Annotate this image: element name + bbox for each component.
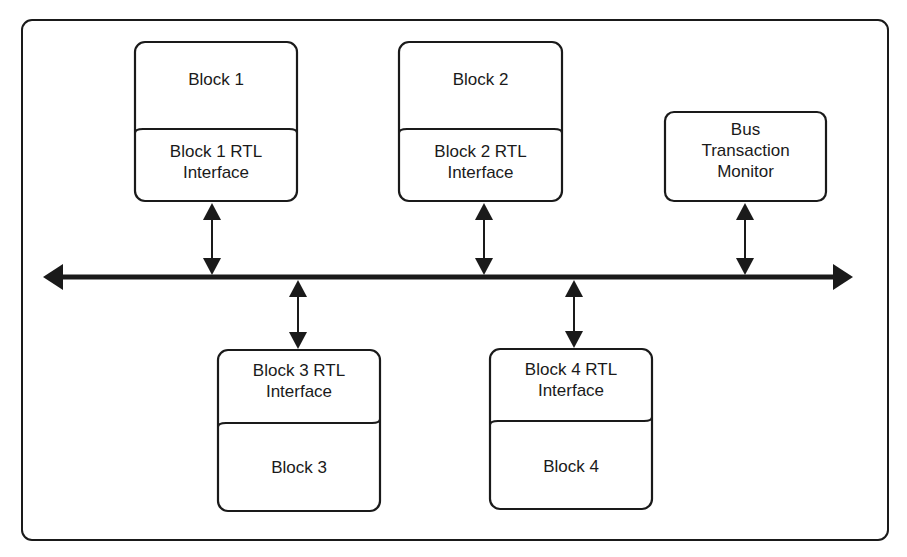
connector-block-3 bbox=[289, 280, 307, 349]
block-4-title: Block 4 bbox=[490, 449, 652, 483]
block-1-interface-label: Block 1 RTL Interface bbox=[135, 138, 297, 186]
block-4-interface-label: Block 4 RTL Interface bbox=[490, 356, 652, 404]
block-3-title: Block 3 bbox=[218, 450, 380, 484]
bus-transaction-monitor-label: Bus Transaction Monitor bbox=[665, 116, 826, 184]
bus-right-arrowhead-icon bbox=[833, 264, 853, 290]
connector-block-4 bbox=[565, 280, 583, 348]
connector-block-1 bbox=[203, 203, 221, 275]
block-2-interface-label: Block 2 RTL Interface bbox=[399, 138, 562, 186]
block-3-interface-label: Block 3 RTL Interface bbox=[218, 357, 380, 405]
block-1-title: Block 1 bbox=[135, 62, 297, 96]
connector-block-2 bbox=[475, 203, 493, 275]
bus-left-arrowhead-icon bbox=[43, 264, 63, 290]
connector-monitor bbox=[736, 203, 754, 275]
block-2-title: Block 2 bbox=[399, 62, 562, 96]
bus-line bbox=[43, 264, 853, 290]
